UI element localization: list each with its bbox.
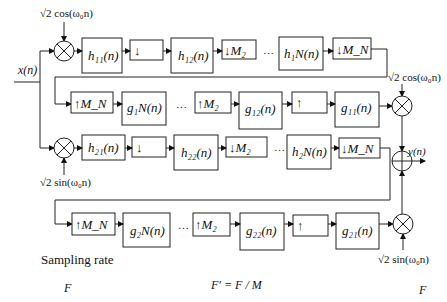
block-up-1: ↑ — [296, 96, 303, 109]
block-down-M2: ↓M₂ — [229, 141, 251, 154]
carrier-right-sin: √2 sin(ω₀n) — [378, 254, 429, 265]
multiplier-bottom-left — [54, 138, 74, 158]
ellipsis: … — [176, 99, 187, 110]
block-up-MN: ↑M_N — [74, 97, 107, 110]
block-h2N: h₂N(n) — [292, 145, 327, 158]
sampling-rate-right: F — [419, 284, 426, 296]
block-g11: g₁₁(n) — [341, 101, 372, 114]
ellipsis: … — [274, 142, 285, 153]
carrier-right-cos: √2 cos(ω₀n) — [388, 72, 441, 83]
multiplier-top-left — [54, 41, 74, 61]
block-up-MN: ↑M_N — [75, 218, 108, 231]
block-up-M2: ↑M₂ — [195, 218, 217, 231]
ellipsis: … — [178, 220, 189, 231]
block-h12: h₁₂(n) — [178, 49, 209, 62]
block-g12: g₁₂(n) — [245, 102, 276, 115]
multiplier-top-right — [392, 96, 412, 116]
block-h22: h₂₂(n) — [181, 146, 212, 159]
block-down-M2: ↓M₂ — [224, 44, 246, 57]
block-g1N: g₁N(n) — [127, 101, 162, 114]
sampling-rate-left: F — [64, 282, 71, 294]
output-label: y(n) — [408, 146, 426, 157]
carrier-top-cos: √2 cos(ω₀n) — [40, 8, 93, 19]
block-g2N: g₂N(n) — [130, 224, 165, 237]
carrier-left-sin: √2 sin(ω₀n) — [40, 177, 91, 188]
block-down-1: ↓ — [136, 141, 143, 154]
input-label: x(n) — [18, 64, 37, 76]
ellipsis: … — [263, 45, 274, 56]
sampling-rate-title: Sampling rate — [41, 253, 114, 266]
block-h11: h₁₁(n) — [88, 49, 119, 62]
block-h21: h₂₁(n) — [88, 141, 119, 154]
block-down-MN: ↓M_N — [341, 142, 374, 155]
multiplier-bottom-right — [393, 214, 413, 234]
block-h1N: h₁N(n) — [284, 47, 319, 60]
multirate-filterbank-diagram: x(n) √2 cos(ω₀n) √2 sin(ω₀n) √2 cos(ω₀n)… — [0, 0, 447, 302]
block-down-1: ↓ — [134, 44, 141, 57]
block-g21: g₂₁(n) — [342, 224, 373, 237]
sampling-rate-middle: F′ = F / M — [211, 279, 262, 291]
block-down-MN: ↓M_N — [336, 43, 369, 56]
block-g22: g₂₂(n) — [246, 224, 277, 237]
block-up-1: ↑ — [297, 219, 304, 232]
block-up-M2: ↑M₂ — [197, 97, 219, 110]
